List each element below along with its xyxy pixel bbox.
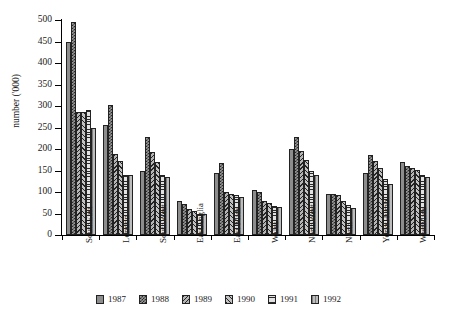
legend-label: 1992 [323,295,341,304]
y-axis-title: number ('000) [11,41,21,161]
legend-item-1992[interactable]: 1992 [311,295,341,304]
bar-group [140,20,170,235]
y-axis-tick [55,106,62,107]
x-axis-category-label: NorthWest [308,204,317,243]
legend-swatch-icon [182,295,190,304]
y-axis-tick [55,192,62,193]
bar-group [326,20,356,235]
bar-group [214,20,244,235]
x-axis-category-label: London [122,215,131,243]
y-axis-labels: 050100150200250300350400450500 [0,0,52,327]
x-axis-category-label: SouthWest [159,204,168,243]
x-axis-tick [322,235,323,240]
y-axis-tick [55,85,62,86]
y-axis-tick [55,235,62,236]
legend-swatch-icon [225,295,233,304]
x-axis-category-label: Wales [271,221,280,243]
y-axis-tick [55,20,62,21]
legend-item-1987[interactable]: 1987 [96,295,126,304]
y-axis-tick-label: 200 [38,144,52,153]
x-axis-tick [360,235,361,240]
legend-item-1989[interactable]: 1989 [182,295,212,304]
x-axis-tick [211,235,212,240]
x-axis-category-label: East Mids [233,207,242,243]
plot-area [62,20,434,235]
x-axis-category-label: WestMids [419,207,428,243]
y-axis-tick [55,42,62,43]
x-axis-tick [285,235,286,240]
legend-item-1988[interactable]: 1988 [139,295,169,304]
x-axis-tick [397,235,398,240]
legend-label: 1989 [194,295,212,304]
y-axis-tick-label: 500 [38,15,52,24]
bar-group [252,20,282,235]
y-axis-tick [55,128,62,129]
legend-label: 1990 [237,295,255,304]
x-axis-tick [99,235,100,240]
y-axis-tick [55,149,62,150]
y-axis-tick-label: 100 [38,187,52,196]
x-axis-category-label: North [345,222,354,243]
y-axis-tick-label: 250 [38,123,52,132]
y-axis-tick [55,63,62,64]
bar-group [66,20,96,235]
x-axis-tick [174,235,175,240]
legend-label: 1987 [108,295,126,304]
x-axis-category-label: SouthEast [85,206,94,243]
x-axis-tick [136,235,137,240]
caption-ghost [150,312,440,322]
y-axis-tick [55,171,62,172]
y-axis-tick-label: 450 [38,37,52,46]
legend-label: 1988 [151,295,169,304]
legend-label: 1991 [280,295,298,304]
y-axis-tick-label: 150 [38,166,52,175]
bar-group [400,20,430,235]
x-axis-category-label: EastAnglia [196,203,205,243]
y-axis-tick [55,214,62,215]
legend-swatch-icon [268,295,276,304]
y-axis-tick-label: 300 [38,101,52,110]
x-axis-tick [434,235,435,240]
legend-item-1990[interactable]: 1990 [225,295,255,304]
legend-swatch-icon [139,295,147,304]
x-axis-tick [62,235,63,240]
legend-swatch-icon [311,295,319,304]
y-axis-tick-label: 0 [47,230,52,239]
y-axis-tick-label: 350 [38,80,52,89]
legend-swatch-icon [96,295,104,304]
x-axis-category-label: YorksHumb [382,199,391,243]
bar-group [103,20,133,235]
chart-legend: 198719881989199019911992 [96,295,354,304]
legend-item-1991[interactable]: 1991 [268,295,298,304]
bar-group [289,20,319,235]
y-axis-tick-label: 50 [43,209,53,218]
y-axis-tick-label: 400 [38,58,52,67]
x-axis-tick [248,235,249,240]
bar-chart: 050100150200250300350400450500 number ('… [0,0,451,327]
